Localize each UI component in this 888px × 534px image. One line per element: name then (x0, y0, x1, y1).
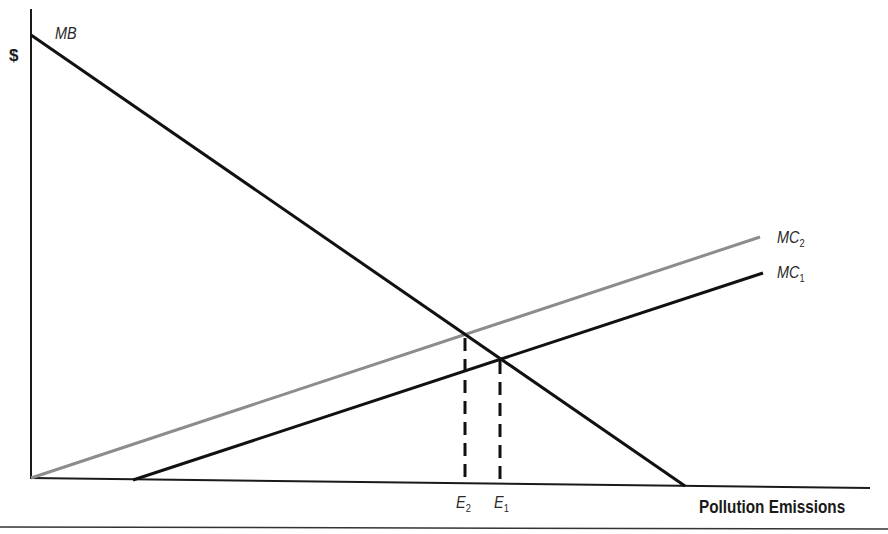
e2-label-main: E (456, 493, 466, 512)
mb-line (31, 35, 685, 486)
x-axis-label: Pollution Emissions (699, 497, 845, 518)
mb-label-text: MB (55, 24, 77, 43)
chart-canvas (0, 0, 888, 534)
e2-label: E2 (456, 493, 471, 514)
x-axis (30, 478, 870, 488)
mc2-label-sub: 2 (799, 237, 804, 249)
mc1-label: MC1 (777, 263, 805, 284)
e1-label-main: E (494, 493, 504, 512)
y-axis-label: $ (9, 46, 18, 66)
mc1-label-sub: 1 (799, 272, 804, 284)
bottom-rule (0, 527, 888, 529)
e1-label-sub: 1 (504, 502, 509, 514)
mc2-label-main: MC (777, 228, 799, 247)
mc2-line (31, 237, 760, 478)
mc1-label-main: MC (777, 263, 799, 282)
mb-label: MB (55, 24, 77, 44)
e1-label: E1 (494, 493, 509, 514)
mc2-label: MC2 (777, 228, 805, 249)
mc1-line (133, 273, 763, 480)
e2-label-sub: 2 (466, 502, 471, 514)
